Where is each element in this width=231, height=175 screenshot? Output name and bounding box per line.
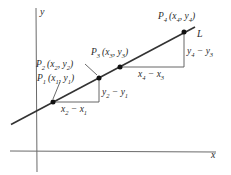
point-p3-label: P3(x3, y3) bbox=[90, 47, 128, 59]
slope-diagram: y x L P4(x4, y4) P3(x3, y3) P2(x2, y2) P… bbox=[0, 0, 231, 175]
point-p2 bbox=[97, 76, 102, 81]
p2-leader-line bbox=[85, 64, 97, 75]
p1-leader-line bbox=[53, 82, 60, 99]
run-1-label: x2 − x1 bbox=[60, 104, 87, 116]
line-l-label: L bbox=[196, 28, 203, 39]
y-axis-label: y bbox=[39, 6, 45, 17]
run-2-label: x4 − x3 bbox=[137, 69, 165, 81]
rise-2-label: y4 − y3 bbox=[186, 46, 214, 58]
point-p1-label: P1(x1, y1) bbox=[36, 73, 74, 85]
point-p3 bbox=[118, 65, 123, 70]
point-p4-label: P4(x4, y4) bbox=[157, 11, 195, 23]
point-p2-label: P2(x2, y2) bbox=[35, 59, 73, 71]
y-axis bbox=[36, 8, 37, 172]
rise-1-label: y2 − y1 bbox=[101, 87, 128, 99]
x-axis bbox=[10, 151, 216, 152]
point-p4 bbox=[182, 30, 187, 35]
point-p1 bbox=[51, 100, 56, 105]
x-axis-label: x bbox=[210, 149, 216, 160]
